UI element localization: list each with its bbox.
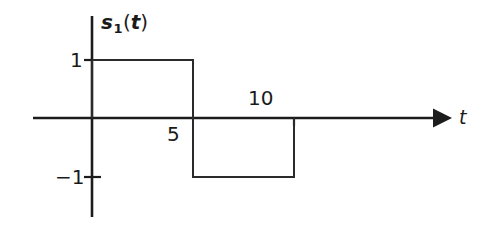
plot-canvas [0,0,495,232]
x-axis-label: t [459,108,466,127]
y-tick-label-negative-one: −1 [55,167,84,187]
y-tick-label-positive-one: 1 [70,50,83,70]
y-axis-label-subscript: 1 [113,21,123,36]
x-tick-label-ten: 10 [248,88,273,108]
y-axis-label: s1(t) [101,12,148,35]
y-axis-label-argument: t [131,10,141,34]
y-axis-label-paren-open: ( [123,10,131,34]
x-axis-arrow-icon [433,109,452,128]
y-axis-label-symbol: s [101,10,113,34]
signal-waveform-figure: s1(t) t 1 −1 5 10 [0,0,495,232]
y-axis-label-paren-close: ) [140,10,148,34]
x-tick-label-five: 5 [167,124,180,144]
